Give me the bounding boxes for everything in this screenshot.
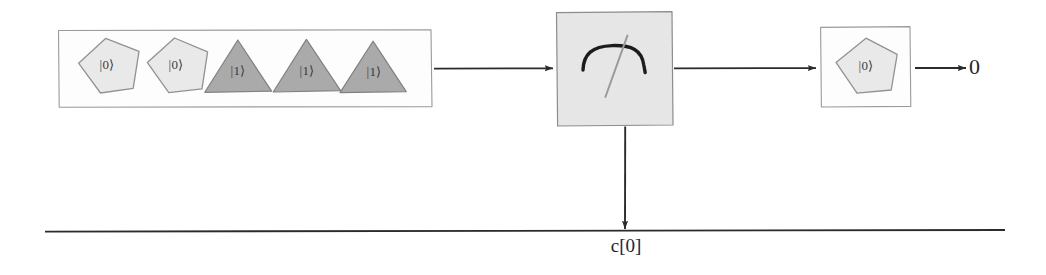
measurement-result-label: 0 bbox=[969, 54, 980, 79]
qubit-state-label: |1⟩ bbox=[299, 63, 314, 78]
qubit-state-label: |0⟩ bbox=[858, 58, 873, 73]
qubit-state-label: |0⟩ bbox=[99, 57, 114, 72]
qubit-state-label: |1⟩ bbox=[366, 64, 381, 79]
input-register-box: |0⟩ |0⟩ |1⟩ |1⟩ |1⟩ bbox=[59, 30, 433, 107]
circuit-canvas: |0⟩ |0⟩ |1⟩ |1⟩ |1⟩ bbox=[0, 0, 1046, 275]
classical-register-label: c[0] bbox=[611, 235, 642, 256]
classical-register-wire bbox=[45, 230, 1005, 232]
qubit-state-label: |0⟩ bbox=[168, 57, 183, 72]
qubit-state-label: |1⟩ bbox=[230, 63, 245, 78]
measurement-gate bbox=[557, 12, 674, 126]
output-register-box: |0⟩ bbox=[821, 27, 911, 107]
quantum-circuit-diagram: |0⟩ |0⟩ |1⟩ |1⟩ |1⟩ bbox=[0, 0, 1046, 275]
